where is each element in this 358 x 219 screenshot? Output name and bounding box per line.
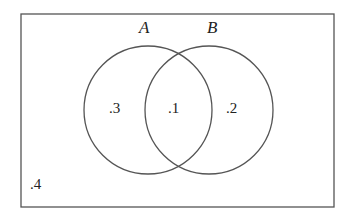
set-a-label: A [138, 18, 150, 37]
venn-diagram: A B .3 .1 .2 .4 [0, 0, 358, 219]
set-a-circle [84, 46, 212, 174]
set-b-circle [145, 46, 273, 174]
outside-value: .4 [30, 176, 42, 192]
b-only-value: .2 [226, 100, 237, 116]
intersection-value: .1 [168, 100, 179, 116]
set-b-label: B [207, 18, 218, 37]
a-only-value: .3 [109, 100, 120, 116]
